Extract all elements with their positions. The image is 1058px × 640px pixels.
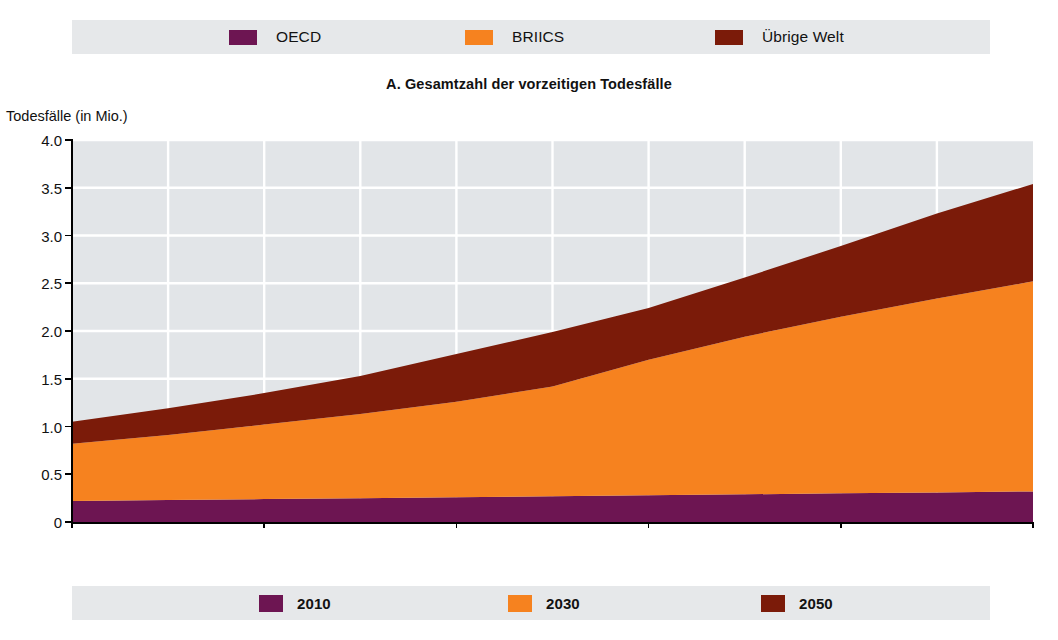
x-axis-tick — [840, 522, 842, 528]
legend-bottom-label: 2050 — [799, 595, 833, 612]
y-axis-tick-label: 3.5 — [2, 179, 62, 196]
y-axis-label: Todesfälle (in Mio.) — [6, 108, 128, 124]
legend-swatch-icon — [715, 30, 743, 45]
legend-top-item[interactable]: Übrige Welt — [715, 20, 844, 54]
x-axis-tick — [648, 522, 650, 528]
stacked-area-svg — [72, 140, 1033, 522]
legend-top-label: BRIICS — [512, 28, 564, 46]
legend-bottom-label: 2010 — [297, 595, 331, 612]
y-axis-tick — [65, 330, 72, 332]
legend-bottom: 201020302050 — [72, 586, 990, 620]
y-axis-tick-label: 2.5 — [2, 275, 62, 292]
y-axis-tick — [65, 473, 72, 475]
y-axis-tick-label: 3.0 — [2, 227, 62, 244]
y-axis-tick — [65, 282, 72, 284]
legend-top-label: OECD — [276, 28, 321, 46]
legend-top-label: Übrige Welt — [762, 28, 844, 46]
legend-swatch-icon — [229, 30, 257, 45]
y-axis-tick-label: 0 — [2, 514, 62, 531]
y-axis-tick-label: 2.0 — [2, 323, 62, 340]
legend-top: OECDBRIICSÜbrige Welt — [72, 20, 990, 54]
x-axis-tick — [263, 522, 265, 528]
x-axis-line — [71, 522, 1034, 524]
x-axis-tick — [71, 522, 73, 528]
legend-bottom-label: 2030 — [546, 595, 580, 612]
legend-swatch-icon — [259, 595, 283, 612]
x-axis-tick — [1032, 522, 1034, 528]
y-axis-tick — [65, 378, 72, 380]
y-axis-tick — [65, 235, 72, 237]
legend-swatch-icon — [508, 595, 532, 612]
y-axis-tick-label: 4.0 — [2, 132, 62, 149]
legend-top-item[interactable]: BRIICS — [465, 20, 564, 54]
y-axis-tick-label: 1.5 — [2, 370, 62, 387]
legend-bottom-item[interactable]: 2010 — [259, 586, 331, 620]
chart-title: A. Gesamtzahl der vorzeitigen Todesfälle — [0, 76, 1058, 92]
y-axis-tick-label: 1.0 — [2, 418, 62, 435]
chart-plot-area: 00.51.01.52.02.53.03.54.0200020102020203… — [72, 140, 1033, 522]
legend-bottom-item[interactable]: 2050 — [761, 586, 833, 620]
x-axis-tick — [456, 522, 458, 528]
legend-swatch-icon — [465, 30, 493, 45]
y-axis-tick — [65, 426, 72, 428]
y-axis-tick — [65, 187, 72, 189]
legend-swatch-icon — [761, 595, 785, 612]
y-axis-tick-label: 0.5 — [2, 466, 62, 483]
y-axis-tick — [65, 139, 72, 141]
legend-bottom-item[interactable]: 2030 — [508, 586, 580, 620]
legend-top-item[interactable]: OECD — [229, 20, 321, 54]
